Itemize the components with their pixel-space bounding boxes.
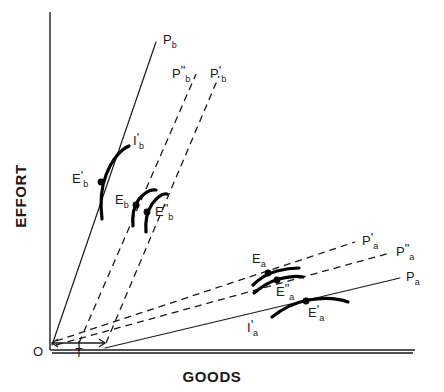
label-p-b-dp-base: P [172, 66, 181, 81]
label-i-b-p-sub: b [139, 141, 144, 151]
budget-line-p-b [52, 42, 156, 345]
label-e-a-p-sub: a [319, 313, 324, 323]
label-p-b-p-base: P [210, 66, 219, 81]
label-p-a-base: P [406, 269, 415, 284]
budget-line-p-b-double-prime [79, 74, 196, 343]
label-p-b-dp-sub: b [185, 74, 190, 84]
origin-label: O [33, 344, 43, 359]
tangency-point-e-a-double-prime [274, 277, 281, 284]
label-e-b-prime: E'b [72, 168, 88, 189]
label-p-a-prime: P'a [362, 230, 378, 251]
label-p-a-dp-base: P [396, 244, 405, 259]
label-i-b-prime: I'b [133, 130, 144, 151]
label-i-a-prime: I'a [247, 317, 258, 338]
tangency-point-e-b-prime [98, 179, 105, 186]
label-e-a: Ea [252, 251, 266, 269]
label-e-a-sub: a [261, 259, 266, 269]
x-axis-title: GOODS [183, 368, 242, 385]
tangency-point-e-b-double-prime [144, 209, 151, 216]
label-p-a-double-prime: P"a [396, 241, 414, 262]
label-e-a-p-base: E [308, 305, 317, 320]
label-i-a-p-sub: a [253, 328, 258, 338]
label-p-b-sub: b [172, 40, 177, 50]
label-e-b: Eb [115, 192, 129, 210]
label-p-a-sub: a [415, 277, 420, 287]
label-e-b-base: E [115, 192, 124, 207]
label-e-b-dp-base: E [155, 204, 164, 219]
label-p-b-prime: P'b [210, 63, 226, 84]
figure-canvas: EFFORT GOODS O T Pb P"b P'b P'a P"a Pa [0, 0, 444, 392]
indifference-curves-b-group [98, 146, 167, 232]
label-e-b-p-sub: b [83, 179, 88, 189]
y-axis-title: EFFORT [12, 164, 29, 228]
label-e-a-prime: E'a [308, 302, 324, 323]
label-p-a-dp-sub: a [409, 252, 414, 262]
label-e-b-sub: b [124, 200, 129, 210]
label-p-b-double-prime: P"b [172, 63, 190, 84]
indifference-curve-figure: EFFORT GOODS O T Pb P"b P'b P'a P"a Pa [0, 0, 444, 392]
budget-line-p-a-prime [56, 242, 355, 341]
tangency-point-e-b [133, 202, 140, 209]
label-e-b-dp-sub: b [168, 212, 173, 222]
budget-line-labels-group: Pb P"b P'b P'a P"a Pa [163, 32, 420, 287]
label-p-b: Pb [163, 32, 177, 50]
label-p-a: Pa [406, 269, 420, 287]
tangency-point-e-a [265, 270, 272, 277]
label-e-a-base: E [252, 251, 261, 266]
tangency-point-e-a-prime [303, 298, 310, 305]
label-e-a-dp-sub: a [289, 292, 294, 302]
label-e-b-double-prime: E"b [155, 201, 173, 222]
label-p-b-base: P [163, 32, 172, 47]
label-p-a-p-sub: a [373, 241, 378, 251]
label-p-a-p-base: P [362, 233, 371, 248]
transfer-label: T [75, 346, 83, 360]
label-e-a-double-prime: E"a [276, 281, 294, 302]
label-e-a-dp-base: E [276, 284, 285, 299]
label-e-b-p-base: E [72, 171, 81, 186]
label-p-b-p-sub: b [221, 74, 226, 84]
